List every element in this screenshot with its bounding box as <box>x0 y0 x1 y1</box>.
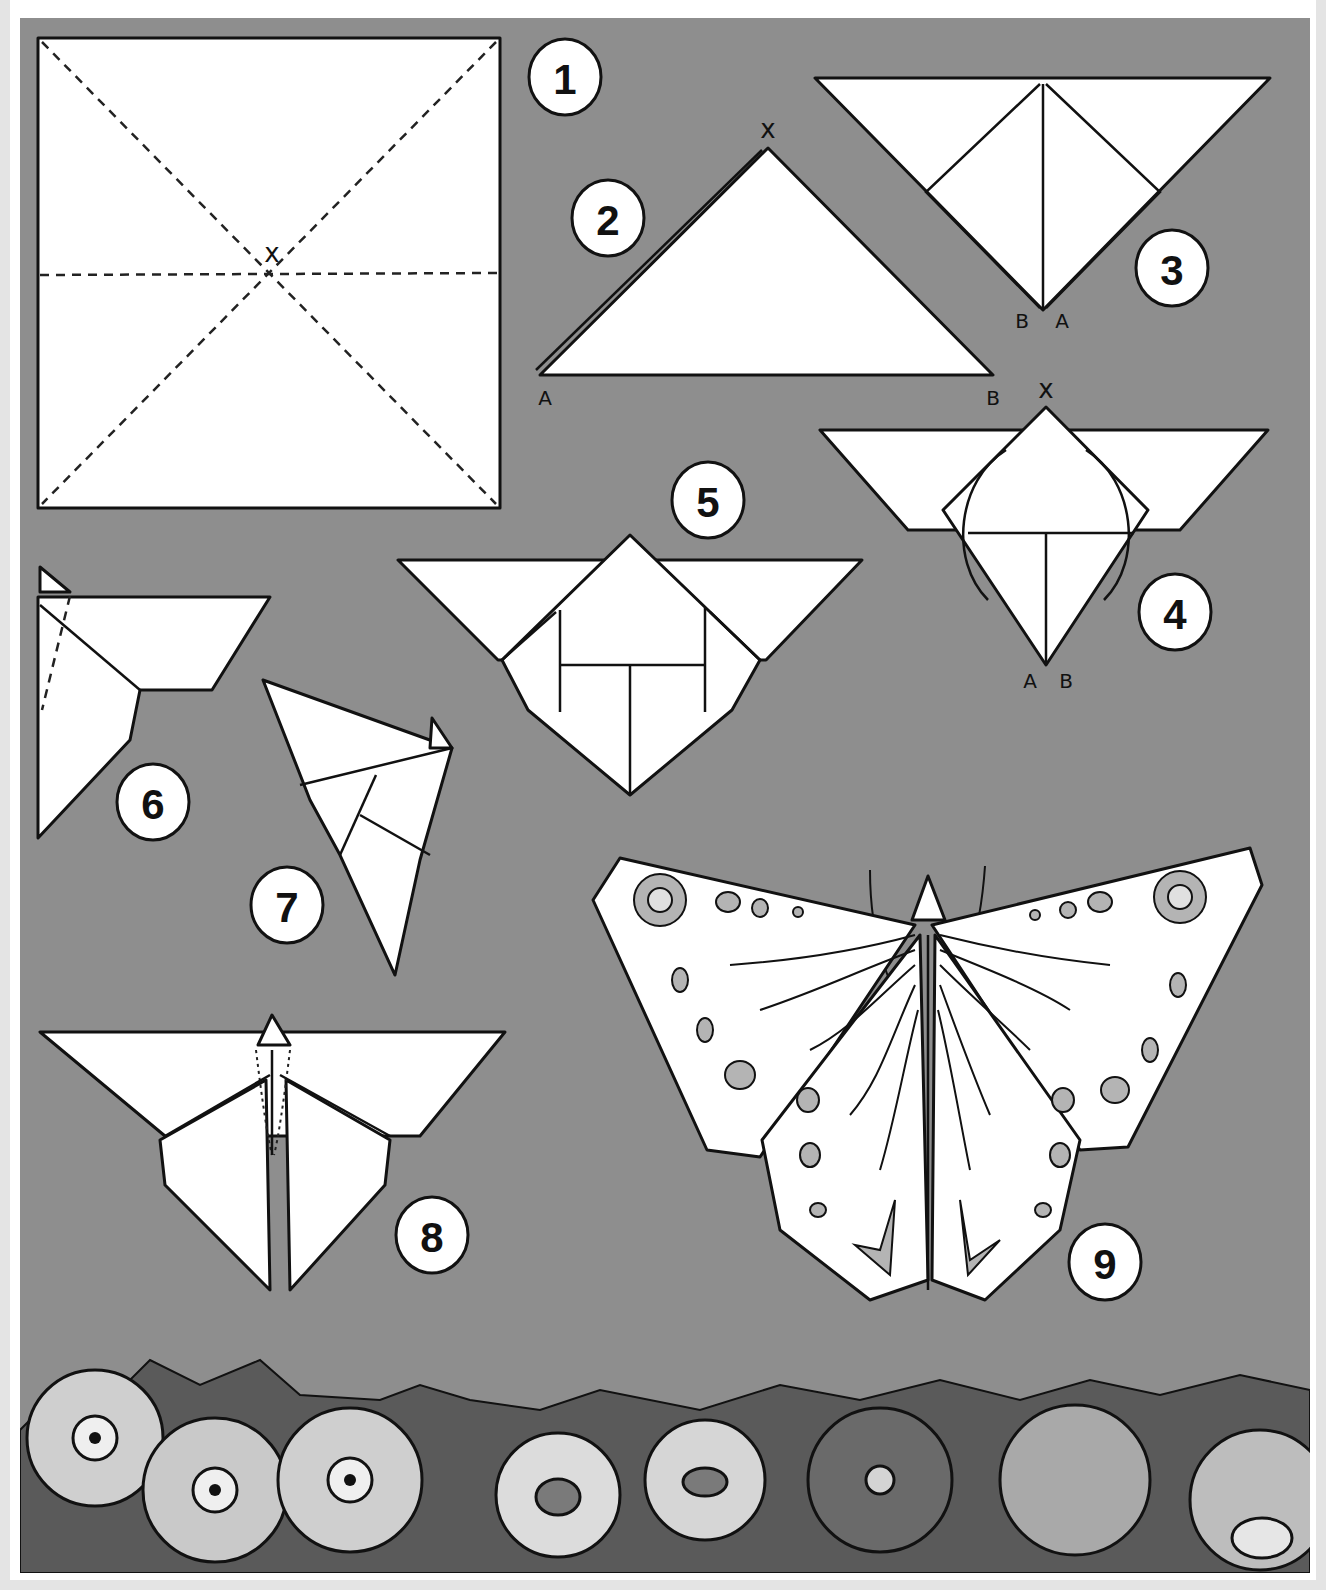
step4-apex-mark: x <box>1038 374 1053 404</box>
step3-label-b: B <box>1015 309 1029 333</box>
flower-border <box>20 1360 1310 1573</box>
step-1-badge: 1 <box>529 39 601 115</box>
step-8-badge: 8 <box>396 1197 468 1273</box>
svg-text:2: 2 <box>596 197 619 244</box>
step2-label-a: A <box>538 386 552 410</box>
svg-text:4: 4 <box>1163 591 1187 638</box>
flower-8 <box>1190 1430 1310 1570</box>
step4-label-a: A <box>1023 669 1037 693</box>
step2-label-b: B <box>986 386 1000 410</box>
step-9-finished-butterfly <box>593 848 1262 1300</box>
step-9-badge: 9 <box>1069 1224 1141 1300</box>
step-1-square: x <box>38 38 500 508</box>
step-5-fold <box>398 535 862 795</box>
step-6-badge: 6 <box>117 764 189 840</box>
flower-4 <box>496 1433 620 1557</box>
step4-label-b: B <box>1059 669 1073 693</box>
svg-text:7: 7 <box>275 884 298 931</box>
step1-center-mark: x <box>264 238 279 268</box>
flower-6 <box>808 1408 952 1552</box>
svg-text:1: 1 <box>553 56 576 103</box>
svg-text:9: 9 <box>1093 1241 1116 1288</box>
flower-2 <box>143 1418 287 1562</box>
step2-apex-mark: x <box>760 114 775 144</box>
flower-7 <box>1000 1405 1150 1555</box>
step-4-fold: x A B <box>820 374 1268 693</box>
step-7-badge: 7 <box>251 867 323 943</box>
svg-text:3: 3 <box>1160 247 1183 294</box>
step-3-badge: 3 <box>1136 230 1208 306</box>
step-4-badge: 4 <box>1139 574 1211 650</box>
flower-3 <box>278 1408 422 1552</box>
flower-5 <box>645 1420 765 1540</box>
step-2-badge: 2 <box>572 180 644 256</box>
svg-text:6: 6 <box>141 781 164 828</box>
svg-text:8: 8 <box>420 1214 443 1261</box>
origami-diagram: x 1 x A B 2 B A 3 x A B <box>20 18 1310 1573</box>
svg-text:5: 5 <box>696 479 719 526</box>
step3-label-a: A <box>1055 309 1069 333</box>
step-5-badge: 5 <box>672 462 744 538</box>
diagram-panel: x 1 x A B 2 B A 3 x A B <box>20 18 1310 1573</box>
